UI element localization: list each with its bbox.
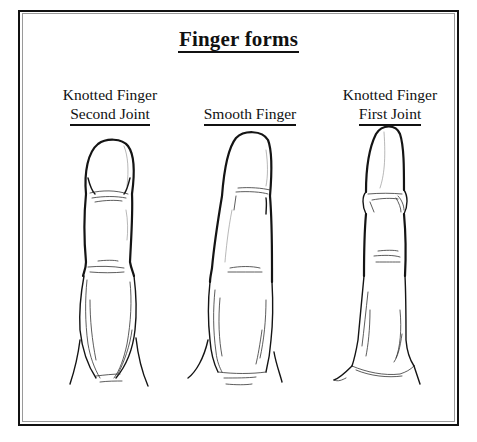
finger-knotted-first-joint-drawing	[334, 127, 420, 385]
finger-sketches	[0, 0, 477, 442]
finger-knotted-second-joint-drawing	[70, 140, 148, 386]
finger-smooth-drawing	[188, 132, 282, 385]
